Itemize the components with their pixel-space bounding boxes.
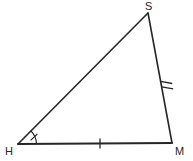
vertex-label-M: M: [175, 146, 184, 157]
triangle-diagram-svg: [0, 0, 193, 161]
tick-mark-SM-2: [162, 87, 173, 89]
tick-mark-SM-1: [161, 81, 172, 83]
vertex-label-S: S: [145, 1, 152, 12]
side-HM: [18, 143, 172, 144]
side-HS: [18, 13, 148, 144]
geometry-figure: S H M: [0, 0, 193, 161]
vertex-label-H: H: [5, 146, 13, 157]
side-SM: [148, 13, 172, 143]
